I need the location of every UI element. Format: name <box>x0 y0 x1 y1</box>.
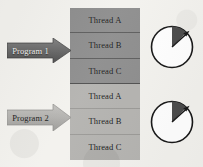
program-1-time-slice-clock <box>149 24 195 70</box>
thread-label: Thread C <box>88 66 121 76</box>
thread-label: Thread A <box>88 15 121 25</box>
thread-group-program-2: Thread A Thread B Thread C <box>70 84 140 160</box>
right-arrow-icon <box>7 104 71 131</box>
thread-box: Thread B <box>70 33 140 58</box>
thread-box: Thread B <box>70 109 140 134</box>
diagram-canvas: Thread A Thread B Thread C Thread A Thre… <box>0 0 203 167</box>
thread-box: Thread C <box>70 135 140 160</box>
thread-box: Thread C <box>70 59 140 84</box>
program-2-arrow: Program 2 <box>7 104 71 131</box>
program-1-arrow: Program 1 <box>7 38 71 63</box>
right-arrow-icon <box>7 38 71 63</box>
thread-label: Thread A <box>88 91 121 101</box>
clock-icon <box>149 24 195 70</box>
thread-label: Thread B <box>88 116 121 126</box>
thread-box: Thread A <box>70 8 140 33</box>
thread-group-program-1: Thread A Thread B Thread C <box>70 8 140 84</box>
program-2-time-slice-clock <box>149 99 195 145</box>
thread-column: Thread A Thread B Thread C Thread A Thre… <box>70 8 140 160</box>
thread-label: Thread B <box>88 40 121 50</box>
thread-label: Thread C <box>88 142 121 152</box>
thread-box: Thread A <box>70 84 140 109</box>
clock-icon <box>149 99 195 145</box>
